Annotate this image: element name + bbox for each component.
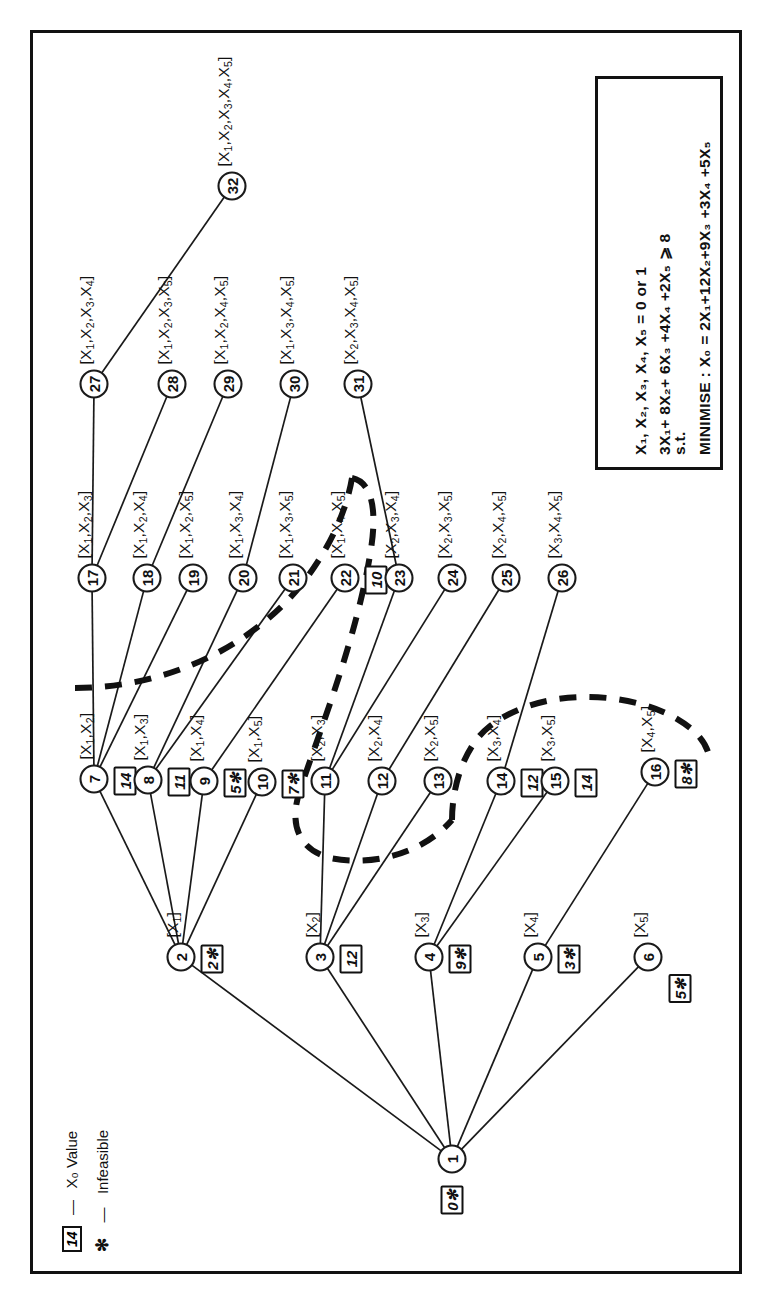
node-value-box: 9✻ <box>450 946 471 973</box>
node-number: 17 <box>84 570 101 587</box>
tree-node-19[interactable]: 19[X1,X2,X5] <box>176 491 207 592</box>
legend-infeasible-label: Infeasible <box>94 1130 111 1194</box>
node-value-box: 2✻ <box>202 946 223 973</box>
tree-edge <box>183 794 203 943</box>
node-set-label: [X1,X2,X4] <box>130 491 149 559</box>
node-number: 13 <box>430 773 447 790</box>
value-text: 12 <box>524 774 541 791</box>
tree-node-13[interactable]: 13[X2,X5] <box>421 715 452 795</box>
node-number: 30 <box>286 376 303 393</box>
node-set-label: [X1,X2,X3,X5] <box>155 276 174 365</box>
tree-node-28[interactable]: 28[X1,X2,X3,X5] <box>155 276 186 398</box>
node-number: 3 <box>312 953 329 961</box>
tree-node-25[interactable]: 25[X2,X4,X5] <box>489 491 520 592</box>
node-set-label: [X2] <box>303 912 322 938</box>
legend-value-box: 14 <box>62 1226 82 1252</box>
node-number: 21 <box>285 570 302 587</box>
value-text: 5✻ <box>227 771 244 793</box>
node-set-label: [X1,X3,X5] <box>276 491 295 559</box>
lp-model-box: MINIMISE : X₀ = 2X₁+12X₂+9X₃ +3X₄ +5X₅ s… <box>595 76 723 470</box>
node-number: 19 <box>185 570 202 587</box>
value-text: 8✻ <box>678 762 695 784</box>
tree-node-6[interactable]: 6[X5]5✻ <box>631 912 691 1002</box>
tree-node-16[interactable]: 16[X4,X5]8✻ <box>638 706 697 788</box>
node-number: 8 <box>140 776 157 784</box>
value-text: 7✻ <box>285 772 302 794</box>
tree-node-5[interactable]: 5[X4]3✻ <box>521 912 580 973</box>
tree-node-22[interactable]: 22[X1,X4,X5]10 <box>328 491 387 594</box>
node-set-label: [X4,X5] <box>638 706 657 753</box>
legend-infeasible-row: ✻ — Infeasible <box>92 1130 113 1252</box>
node-number: 14 <box>493 772 510 789</box>
value-text: 14 <box>117 772 134 789</box>
node-number: 11 <box>317 773 334 789</box>
node-number: 6 <box>640 953 657 961</box>
legend-value-dash: — <box>63 1200 80 1215</box>
node-number: 26 <box>554 570 571 587</box>
tree-node-2[interactable]: 2[X1]2✻ <box>164 912 223 973</box>
tree-node-15[interactable]: 15[X3,X5]14 <box>538 715 597 797</box>
node-value-box: 0✻ <box>442 1187 463 1214</box>
node-set-label: [X1,X5] <box>245 716 264 763</box>
value-text: 10 <box>368 571 385 588</box>
node-set-label: [X1,X2,X4,X5] <box>211 276 230 365</box>
node-value-box: 8✻ <box>676 761 697 788</box>
node-set-label: [X3] <box>412 912 431 938</box>
node-number: 10 <box>254 774 271 791</box>
tree-edge <box>327 968 444 1147</box>
legend-star-icon: ✻ <box>93 1238 112 1252</box>
tree-node-14[interactable]: 14[X3,X4]12 <box>484 715 543 797</box>
legend-infeasible-dash: — <box>94 1208 111 1223</box>
node-set-label: [X3,X5] <box>538 715 557 762</box>
lp-binary: X₁, X₂, X₃, X₄, X₅ = 0 or 1 <box>632 267 650 455</box>
node-number: 25 <box>498 570 515 587</box>
tree-node-4[interactable]: 4[X3]9✻ <box>412 912 471 973</box>
node-set-label: [X1] <box>164 912 183 938</box>
tree-node-17[interactable]: 17[X1,X2,X3] <box>75 491 106 592</box>
tree-node-32[interactable]: 32[X1,X2,X3,X4,X5] <box>215 57 246 200</box>
node-set-label: [X4] <box>521 912 540 938</box>
node-number: 2 <box>173 953 190 961</box>
value-text: 0✻ <box>444 1188 461 1210</box>
node-number: 12 <box>374 773 391 790</box>
node-number: 20 <box>235 570 252 587</box>
node-value-box: 5✻ <box>670 975 691 1002</box>
tree-edge <box>192 965 441 1151</box>
node-value-box: 14 <box>576 770 597 797</box>
node-number: 22 <box>337 570 354 587</box>
tree-node-23[interactable]: 23[X2,X3,X4] <box>382 491 413 592</box>
node-number: 29 <box>220 376 237 393</box>
node-number: 27 <box>86 376 103 393</box>
tree-node-27[interactable]: 27[X1,X2,X3,X4] <box>77 276 108 398</box>
tree-node-29[interactable]: 29[X1,X2,X4,X5] <box>211 276 242 398</box>
tree-node-18[interactable]: 18[X1,X2,X4] <box>130 491 161 592</box>
tree-node-26[interactable]: 26[X3,X4,X5] <box>545 491 576 592</box>
tree-node-1[interactable]: 10✻ <box>439 1146 466 1214</box>
tree-node-24[interactable]: 24[X2,X3,X5] <box>435 491 466 592</box>
node-set-label: [X2,X4] <box>365 715 384 762</box>
value-text: 5✻ <box>672 977 689 999</box>
node-set-label: [X1,X2] <box>77 713 96 760</box>
tree-edge <box>389 590 499 770</box>
value-text: 11 <box>171 774 188 790</box>
dashed-boundary-left <box>75 478 352 688</box>
tree-node-12[interactable]: 12[X2,X4] <box>365 715 396 795</box>
node-value-box: 10 <box>366 567 387 594</box>
tree-node-21[interactable]: 21[X1,X3,X5] <box>276 491 307 592</box>
lp-objective: MINIMISE : X₀ = 2X₁+12X₂+9X₃ +3X₄ +5X₅ <box>696 141 714 455</box>
tree-node-30[interactable]: 30[X1,X3,X4,X5] <box>277 276 308 398</box>
node-set-label: [X2,X3,X4] <box>382 491 401 559</box>
node-set-label: [X1,X2,X3] <box>75 491 94 559</box>
node-set-label: [X2,X3,X5] <box>435 491 454 559</box>
tree-edge <box>457 969 532 1146</box>
legend-value-label: X₀ Value <box>63 1131 80 1189</box>
node-number: 7 <box>86 775 103 783</box>
figure-page: 10✻2[X1]2✻3[X2]124[X3]9✻5[X4]3✻6[X5]5✻7[… <box>0 0 776 1308</box>
tree-node-9[interactable]: 9[X1,X4]5✻ <box>187 715 246 797</box>
value-text: 12 <box>343 950 360 967</box>
node-set-label: [X1,X4,X5] <box>328 491 347 559</box>
tree-node-10[interactable]: 10[X1,X5]7✻ <box>245 716 304 798</box>
value-text: 2✻ <box>204 947 221 970</box>
tree-node-31[interactable]: 31[X2,X3,X4,X5] <box>341 276 372 398</box>
node-number: 31 <box>350 376 367 393</box>
